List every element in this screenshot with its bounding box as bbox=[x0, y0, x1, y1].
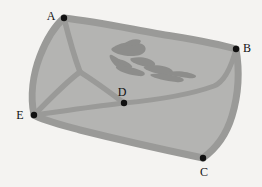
vertex-a[interactable] bbox=[61, 15, 67, 21]
vertex-label-a: A bbox=[47, 9, 56, 23]
vertex-e[interactable] bbox=[31, 112, 37, 118]
vertex-c[interactable] bbox=[200, 155, 206, 161]
vertex-d[interactable] bbox=[121, 100, 127, 106]
vertex-label-e: E bbox=[16, 108, 23, 122]
region-map-svg: A B C D E bbox=[0, 0, 262, 187]
vertex-label-c: C bbox=[200, 165, 208, 179]
vertex-b[interactable] bbox=[233, 46, 239, 52]
vertex-label-b: B bbox=[243, 41, 251, 55]
diagram-canvas: A B C D E bbox=[0, 0, 262, 187]
vertex-label-d: D bbox=[118, 85, 127, 99]
